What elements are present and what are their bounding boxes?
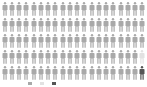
- person-icon: [52, 50, 59, 65]
- person-icon: [132, 50, 139, 65]
- person-icon: [66, 34, 73, 49]
- person-icon: [52, 66, 59, 81]
- person-icon: [132, 66, 139, 81]
- person-icon: [16, 18, 23, 33]
- person-icon: [95, 34, 102, 49]
- person-icon: [37, 18, 44, 33]
- person-icon: [8, 18, 15, 33]
- person-icon: [88, 2, 95, 17]
- person-icon: [66, 18, 73, 33]
- person-icon: [117, 50, 124, 65]
- pictogram-row: [1, 18, 146, 34]
- person-icon: [37, 66, 44, 81]
- person-icon: [139, 2, 146, 17]
- person-icon: [81, 34, 88, 49]
- person-icon: [117, 2, 124, 17]
- person-icon: [59, 2, 66, 17]
- person-icon: [37, 2, 44, 17]
- person-icon: [59, 18, 66, 33]
- person-icon: [59, 34, 66, 49]
- person-icon: [45, 66, 52, 81]
- person-icon: [23, 18, 30, 33]
- person-icon: [117, 34, 124, 49]
- person-icon: [74, 66, 81, 81]
- person-icon: [16, 66, 23, 81]
- person-icon: [103, 50, 110, 65]
- person-icon: [81, 50, 88, 65]
- person-icon: [30, 50, 37, 65]
- legend-swatch-a: [28, 82, 32, 85]
- person-icon: [110, 2, 117, 17]
- person-icon: [81, 2, 88, 17]
- person-icon: [103, 2, 110, 17]
- person-icon: [45, 2, 52, 17]
- person-icon: [30, 66, 37, 81]
- person-icon: [16, 50, 23, 65]
- person-icon: [88, 18, 95, 33]
- person-icon: [74, 50, 81, 65]
- legend-swatch-b: [40, 82, 44, 85]
- person-icon: [110, 66, 117, 81]
- person-icon: [37, 34, 44, 49]
- person-icon: [30, 34, 37, 49]
- person-icon: [59, 66, 66, 81]
- person-icon: [132, 2, 139, 17]
- pictogram-row: [1, 34, 146, 50]
- person-icon: [117, 66, 124, 81]
- person-icon: [103, 34, 110, 49]
- person-icon: [8, 2, 15, 17]
- person-icon: [66, 2, 73, 17]
- person-icon: [110, 18, 117, 33]
- person-icon: [52, 34, 59, 49]
- person-icon: [117, 18, 124, 33]
- person-icon: [45, 50, 52, 65]
- legend: [28, 82, 60, 85]
- pictogram-row: [1, 50, 146, 66]
- person-icon: [110, 50, 117, 65]
- person-icon: [124, 18, 131, 33]
- person-icon: [124, 34, 131, 49]
- person-icon: [88, 50, 95, 65]
- person-icon: [23, 2, 30, 17]
- pictogram-row: [1, 2, 146, 18]
- person-icon: [132, 34, 139, 49]
- person-icon: [45, 34, 52, 49]
- person-icon: [81, 66, 88, 81]
- person-icon: [139, 66, 146, 81]
- person-icon: [88, 66, 95, 81]
- person-icon: [1, 18, 8, 33]
- person-icon: [124, 66, 131, 81]
- person-icon: [52, 18, 59, 33]
- person-icon: [8, 50, 15, 65]
- person-icon: [23, 66, 30, 81]
- pictogram-row: [1, 66, 146, 82]
- person-icon: [37, 50, 44, 65]
- person-icon: [59, 50, 66, 65]
- person-icon: [8, 34, 15, 49]
- person-icon: [132, 18, 139, 33]
- person-icon: [95, 66, 102, 81]
- person-icon: [1, 66, 8, 81]
- person-icon: [95, 18, 102, 33]
- person-icon: [124, 2, 131, 17]
- person-icon: [52, 2, 59, 17]
- person-icon: [103, 18, 110, 33]
- person-icon: [45, 18, 52, 33]
- person-icon: [66, 50, 73, 65]
- person-icon: [1, 2, 8, 17]
- person-icon: [124, 50, 131, 65]
- person-icon: [16, 34, 23, 49]
- person-icon: [74, 18, 81, 33]
- person-icon: [23, 50, 30, 65]
- person-icon: [8, 66, 15, 81]
- person-icon: [103, 66, 110, 81]
- person-icon: [23, 34, 30, 49]
- person-icon: [139, 50, 146, 65]
- person-icon: [74, 2, 81, 17]
- pictogram-grid: [1, 2, 146, 82]
- person-icon: [95, 50, 102, 65]
- person-icon: [74, 34, 81, 49]
- person-icon: [16, 2, 23, 17]
- person-icon: [95, 2, 102, 17]
- person-icon: [30, 18, 37, 33]
